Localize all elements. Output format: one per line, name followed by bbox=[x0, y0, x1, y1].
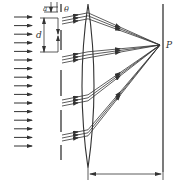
diffracted-rays bbox=[62, 13, 160, 141]
label-angle: θ bbox=[64, 5, 69, 14]
label-focus-point: P bbox=[165, 40, 173, 50]
focal-length-dimension bbox=[88, 168, 163, 180]
incident-wave-arrows bbox=[14, 17, 32, 146]
label-slit-width: a bbox=[43, 5, 47, 13]
label-grating-period: d bbox=[36, 30, 42, 40]
lens bbox=[82, 4, 94, 168]
grating-diffraction-diagram: a d θ P bbox=[0, 0, 187, 182]
